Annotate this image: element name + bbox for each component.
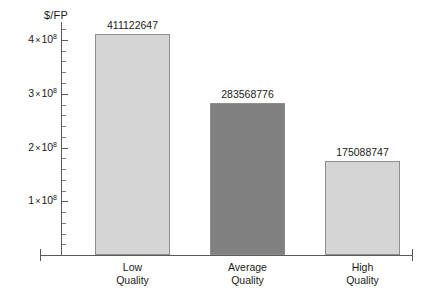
y-axis-tick-label: 1×108 [0,194,57,207]
y-axis-minor-tick [62,223,66,224]
y-axis-minor-tick [62,234,66,235]
y-axis-minor-tick [62,158,66,159]
y-axis-minor-tick [62,126,66,127]
y-axis-major-tick [62,40,68,41]
y-axis-minor-tick [62,61,66,62]
y-axis-tick-label: 3×108 [0,87,57,100]
y-axis-minor-tick [62,169,66,170]
bar [325,161,400,255]
bar-value-label: 411122647 [80,19,185,31]
bar [210,103,285,255]
y-axis-tick-label-text: 3×108 [3,87,57,99]
y-axis-minor-tick [62,51,66,52]
y-axis-minor-tick [62,72,66,73]
bar-value-label: 283568776 [195,88,300,100]
y-axis-minor-tick [62,105,66,106]
x-axis-end-tick [412,249,413,261]
y-axis-tick-label: 2×108 [0,141,57,154]
y-axis-minor-tick [62,115,66,116]
y-axis-major-tick [62,201,68,202]
category-label-line2: Quality [75,274,190,287]
x-axis-line [40,255,413,256]
y-axis-tick-label: 4×108 [0,33,57,46]
y-axis-tick-label-text: 1×108 [3,194,57,206]
bar [95,34,170,255]
x-axis-category-label: LowQuality [75,261,190,286]
y-axis-unit-label: $/FP [44,9,68,21]
category-label-line1: High [352,261,374,273]
y-axis-line [61,22,62,256]
x-axis-category-label: AverageQuality [190,261,305,286]
y-axis-minor-tick [62,83,66,84]
y-axis-major-tick [62,148,68,149]
y-axis-minor-tick [62,212,66,213]
bar-chart: $/FP 1×1082×1083×1084×108 41112264728356… [0,0,427,300]
y-axis-minor-tick [62,180,66,181]
bar-value-label: 175088747 [310,146,415,158]
category-label-line1: Low [123,261,142,273]
x-axis-start-tick [40,249,41,261]
y-axis-minor-tick [62,29,66,30]
y-axis-minor-tick [62,191,66,192]
category-label-line1: Average [228,261,267,273]
y-axis-tick-label-text: 4×108 [3,33,57,45]
y-axis-minor-tick [62,137,66,138]
category-label-line2: Quality [305,274,420,287]
x-axis-category-label: HighQuality [305,261,420,286]
y-axis-major-tick [62,94,68,95]
y-axis-tick-label-text: 2×108 [3,141,57,153]
y-axis-minor-tick [62,244,66,245]
category-label-line2: Quality [190,274,305,287]
